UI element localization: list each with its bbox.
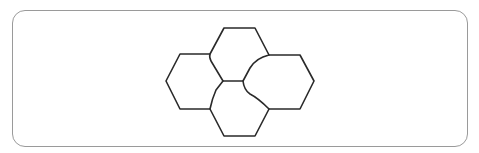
hex-cell-top: [210, 28, 269, 81]
hex-cell-bottom: [210, 109, 269, 136]
hexagon-cluster-diagram: [0, 0, 479, 153]
hex-cell-left: [166, 54, 223, 109]
